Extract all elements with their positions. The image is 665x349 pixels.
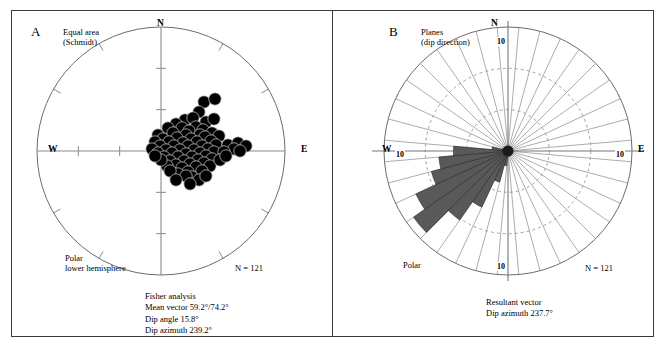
panel-a-corner-label: Polar lower hemisphere [65,253,126,273]
rose-scale-label-south: 10 [496,262,506,271]
compass-east-b: E [638,144,644,154]
rose-scale-label-north: 10 [496,37,506,46]
rose-scale-label-east: 10 [615,150,625,159]
panel-a-n-label: N = 121 [235,263,263,273]
compass-east-a: E [301,144,307,154]
panel-b-corner-label: Polar [403,260,421,270]
panel-a-letter: A [31,24,40,40]
stereonet-plot [11,10,333,337]
fisher-analysis-stats: Fisher analysis Mean vector 59.2°/74.2° … [145,291,229,336]
panel-b-n-label: N = 121 [585,263,613,273]
compass-north-b: N [491,18,498,28]
panel-a-stereonet: A Equal area (Schmidt) Polar lower hemis… [11,10,333,337]
compass-west-a: W [48,144,58,154]
figure-root: A Equal area (Schmidt) Polar lower hemis… [0,0,665,349]
compass-west-b: W [382,144,392,154]
rose-scale-label-west: 10 [395,150,405,159]
panel-a-header: Equal area (Schmidt) [63,27,99,47]
panel-b-header: Planes (dip direction) [421,27,470,47]
panel-b-letter: B [389,24,398,40]
resultant-vector-stats: Resultant vector Dip azimuth 237.7° [486,297,553,320]
compass-north-a: N [157,18,164,28]
rose-diagram-plot [333,10,654,337]
panel-b-rose-diagram: B Planes (dip direction) Polar N = 121 N… [333,10,654,337]
